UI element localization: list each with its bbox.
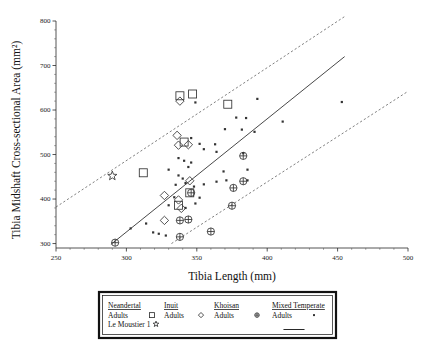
data-point [228, 202, 235, 209]
data-point [246, 169, 248, 171]
data-point [189, 90, 197, 98]
data-point [199, 143, 201, 145]
data-point [175, 184, 177, 186]
data-point [203, 148, 205, 150]
data-point [214, 143, 216, 145]
data-point [242, 152, 244, 154]
x-tick-label: 300 [121, 254, 132, 262]
data-point [222, 170, 224, 172]
data-point [199, 197, 201, 199]
data-point [203, 183, 205, 185]
data-point [174, 201, 182, 209]
data-point [145, 222, 147, 224]
data-point [176, 217, 183, 224]
legend-row-label: Le Moustier 1 [108, 320, 151, 329]
trend-line-regression [111, 57, 345, 245]
x-axis-title: Tibia Length (mm) [188, 270, 276, 283]
data-point [176, 92, 184, 100]
y-tick-label: 800 [40, 17, 51, 25]
data-point [112, 239, 119, 246]
x-tick-label: 250 [51, 254, 62, 262]
data-points-group [108, 90, 343, 246]
axes-group: 300400500600700800250300350400450500 [40, 17, 414, 262]
data-point [240, 178, 247, 185]
series-0 [139, 90, 231, 209]
data-point [245, 117, 247, 119]
y-axis-title: Tibia Midshaft Cross-sectional Area (mm²… [10, 41, 23, 240]
data-point [193, 185, 195, 187]
scatter-plot: 300400500600700800250300350400450500 Tib… [0, 0, 422, 346]
data-point [185, 216, 192, 223]
data-point [224, 100, 232, 108]
data-point [183, 160, 185, 162]
data-point [184, 207, 186, 209]
legend: NeandertalAdultsLe Moustier 1InuitAdults… [99, 292, 336, 338]
trend-line-upper-prediction [56, 17, 345, 208]
trend-lines-group [56, 17, 408, 245]
data-point [230, 184, 237, 191]
data-point [188, 189, 195, 196]
data-point [215, 151, 217, 153]
figure-container: 300400500600700800250300350400450500 Tib… [0, 0, 422, 346]
series-3 [112, 152, 247, 246]
data-point [160, 191, 168, 199]
y-tick-label: 700 [40, 62, 51, 70]
legend-heading: Khoisan [214, 301, 239, 310]
data-point [177, 157, 179, 159]
data-point [184, 182, 186, 184]
data-point [341, 101, 343, 103]
x-tick-label: 500 [403, 254, 414, 262]
data-point [158, 233, 160, 235]
data-point [168, 204, 170, 206]
legend-row-label: Adults [164, 311, 184, 320]
data-point [152, 231, 154, 233]
y-tick-label: 500 [40, 151, 51, 159]
data-point [224, 128, 226, 130]
data-point [215, 181, 217, 183]
data-point [241, 129, 243, 131]
legend-row-label: Adults [272, 311, 292, 320]
data-point [253, 131, 255, 133]
legend-heading: Mixed Temperate [272, 301, 326, 310]
data-point [173, 196, 175, 198]
data-point [174, 141, 182, 149]
y-tick-label: 400 [40, 195, 51, 203]
data-point [194, 202, 196, 204]
legend-marker-circle-plus [255, 313, 259, 317]
data-point [165, 234, 167, 236]
data-point [177, 204, 185, 212]
data-point [187, 166, 189, 168]
data-point [235, 116, 237, 118]
data-point [282, 120, 284, 122]
data-point [182, 177, 184, 179]
x-tick-label: 350 [192, 254, 203, 262]
y-tick-label: 600 [40, 106, 51, 114]
data-point [160, 216, 168, 224]
data-point [130, 227, 132, 229]
data-point [174, 196, 182, 204]
data-point [139, 169, 147, 177]
legend-heading: Inuit [164, 301, 179, 310]
x-tick-label: 400 [262, 254, 273, 262]
data-point [190, 161, 192, 163]
data-point [168, 169, 170, 171]
x-tick-label: 450 [332, 254, 343, 262]
data-point [190, 137, 192, 139]
y-tick-label: 300 [40, 240, 51, 248]
data-point [256, 98, 258, 100]
series-2 [160, 97, 194, 225]
legend-row-label: Adults [108, 311, 128, 320]
data-point [225, 179, 227, 181]
data-point [246, 179, 248, 181]
data-point [177, 174, 179, 176]
legend-marker-small-dot [313, 314, 315, 316]
data-point [176, 97, 184, 105]
legend-row-label: Adults [214, 311, 234, 320]
legend-heading: Neandertal [108, 301, 141, 310]
data-point [194, 101, 196, 103]
data-point [176, 233, 183, 240]
data-point [207, 228, 214, 235]
series-4 [130, 98, 343, 237]
